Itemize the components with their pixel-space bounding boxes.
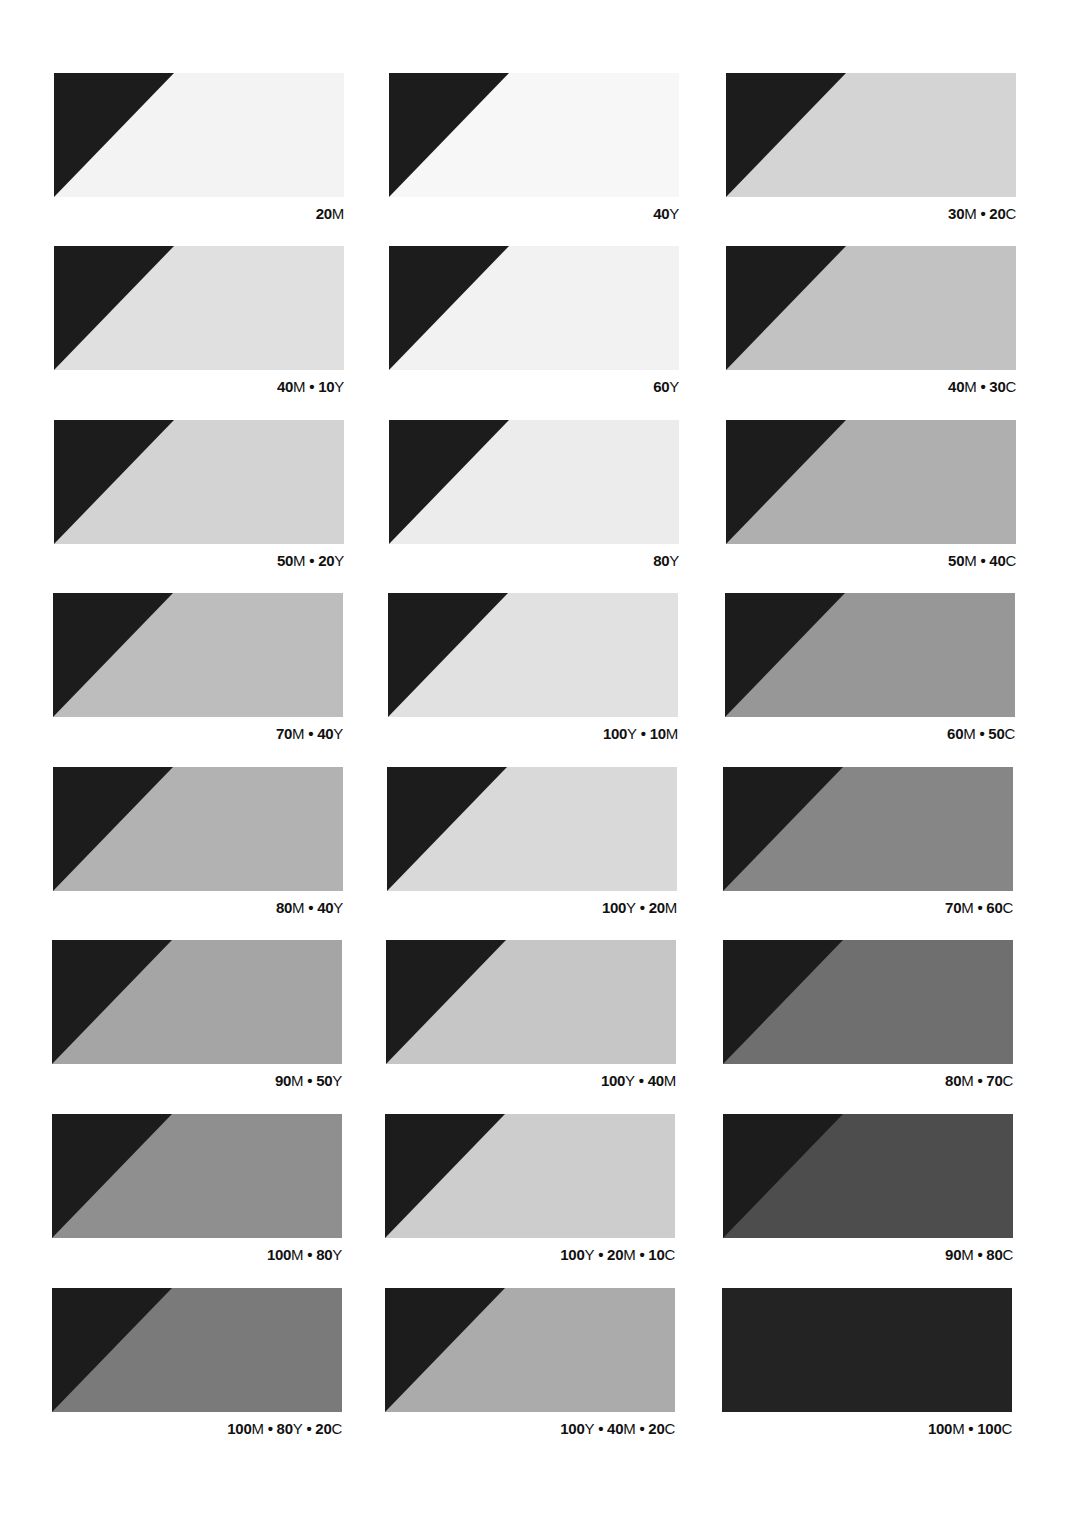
- swatch-color-block: [385, 1114, 675, 1238]
- black-triangle-icon: [385, 1288, 675, 1412]
- ink-percent: 80: [316, 1246, 332, 1263]
- ink-percent: 40: [648, 1072, 664, 1089]
- color-swatch: 40M•30C: [726, 246, 1016, 416]
- ink-channel: Y: [293, 1420, 303, 1437]
- separator-dot: •: [973, 1072, 986, 1089]
- swatch-color-block: [54, 420, 344, 544]
- ink-percent: 80: [277, 1420, 293, 1437]
- ink-channel: M: [964, 205, 976, 222]
- ink-channel: Y: [332, 1072, 342, 1089]
- color-swatch: 60Y: [389, 246, 679, 416]
- ink-channel: M: [665, 899, 677, 916]
- ink-percent: 100: [560, 1246, 584, 1263]
- swatch-color-block: [723, 940, 1013, 1064]
- ink-channel: C: [1005, 378, 1016, 395]
- ink-percent: 80: [945, 1072, 961, 1089]
- ink-percent: 40: [317, 899, 333, 916]
- color-swatch: 60M•50C: [725, 593, 1015, 763]
- ink-percent: 90: [945, 1246, 961, 1263]
- black-triangle-icon: [52, 1114, 342, 1238]
- ink-channel: C: [1005, 552, 1016, 569]
- black-triangle-icon: [54, 73, 344, 197]
- color-swatch: 90M•80C: [723, 1114, 1013, 1284]
- ink-percent: 10: [648, 1246, 664, 1263]
- ink-channel: M: [664, 1072, 676, 1089]
- separator-dot: •: [302, 1420, 315, 1437]
- ink-channel: Y: [584, 1420, 594, 1437]
- ink-percent: 80: [653, 552, 669, 569]
- ink-percent: 20: [315, 1420, 331, 1437]
- ink-percent: 100: [227, 1420, 251, 1437]
- ink-percent: 10: [650, 725, 666, 742]
- ink-channel: M: [961, 1072, 973, 1089]
- ink-channel: C: [664, 1420, 675, 1437]
- swatch-color-block: [387, 767, 677, 891]
- swatch-label: 100Y•10M: [603, 725, 678, 742]
- color-swatch: 100Y•20M•10C: [385, 1114, 675, 1284]
- separator-dot: •: [975, 725, 988, 742]
- black-triangle-icon: [389, 73, 679, 197]
- ink-channel: C: [1005, 205, 1016, 222]
- swatch-label: 100Y•40M•20C: [560, 1420, 675, 1437]
- ink-channel: M: [961, 1246, 973, 1263]
- black-triangle-icon: [52, 1288, 342, 1412]
- swatch-color-block: [726, 420, 1016, 544]
- separator-dot: •: [635, 1246, 648, 1263]
- black-triangle-icon: [54, 420, 344, 544]
- swatch-label: 30M•20C: [948, 205, 1016, 222]
- swatch-color-block: [52, 1114, 342, 1238]
- ink-channel: Y: [669, 205, 679, 222]
- swatch-color-block: [54, 246, 344, 370]
- ink-percent: 20: [318, 552, 334, 569]
- swatch-color-block: [723, 767, 1013, 891]
- separator-dot: •: [594, 1420, 607, 1437]
- ink-channel: M: [961, 899, 973, 916]
- separator-dot: •: [964, 1420, 977, 1437]
- ink-percent: 40: [989, 552, 1005, 569]
- swatch-color-block: [385, 1288, 675, 1412]
- swatch-color-block: [52, 940, 342, 1064]
- ink-channel: C: [1002, 899, 1013, 916]
- color-swatch: 100Y•40M: [386, 940, 676, 1110]
- swatch-color-block: [52, 1288, 342, 1412]
- color-swatch: 100M•80Y•20C: [52, 1288, 342, 1458]
- ink-channel: C: [664, 1246, 675, 1263]
- ink-percent: 20: [607, 1246, 623, 1263]
- swatch-label: 100M•80Y•20C: [227, 1420, 342, 1437]
- swatch-label: 80M•70C: [945, 1072, 1013, 1089]
- color-swatch: 40Y: [389, 73, 679, 243]
- ink-channel: M: [292, 725, 304, 742]
- ink-channel: Y: [627, 725, 637, 742]
- ink-percent: 50: [277, 552, 293, 569]
- ink-channel: M: [623, 1246, 635, 1263]
- ink-channel: Y: [333, 899, 343, 916]
- ink-percent: 80: [276, 899, 292, 916]
- separator-dot: •: [304, 725, 317, 742]
- black-triangle-icon: [387, 767, 677, 891]
- ink-percent: 40: [607, 1420, 623, 1437]
- color-swatch: 90M•50Y: [52, 940, 342, 1110]
- ink-percent: 100: [602, 899, 626, 916]
- black-triangle-icon: [726, 420, 1016, 544]
- color-swatch: 40M•10Y: [54, 246, 344, 416]
- ink-percent: 50: [988, 725, 1004, 742]
- swatch-label: 90M•50Y: [275, 1072, 342, 1089]
- ink-channel: C: [1001, 1420, 1012, 1437]
- ink-percent: 50: [316, 1072, 332, 1089]
- black-triangle-icon: [389, 246, 679, 370]
- swatch-label: 100M•100C: [928, 1420, 1012, 1437]
- color-swatch: 80Y: [389, 420, 679, 590]
- swatch-label: 40M•30C: [948, 378, 1016, 395]
- ink-channel: M: [964, 552, 976, 569]
- ink-percent: 10: [318, 378, 334, 395]
- color-swatch: 30M•20C: [726, 73, 1016, 243]
- swatch-color-block: [386, 940, 676, 1064]
- ink-channel: C: [331, 1420, 342, 1437]
- separator-dot: •: [973, 1246, 986, 1263]
- swatch-label: 90M•80C: [945, 1246, 1013, 1263]
- ink-channel: M: [293, 378, 305, 395]
- separator-dot: •: [635, 1420, 648, 1437]
- swatch-label: 70M•60C: [945, 899, 1013, 916]
- separator-dot: •: [304, 899, 317, 916]
- ink-channel: Y: [669, 378, 679, 395]
